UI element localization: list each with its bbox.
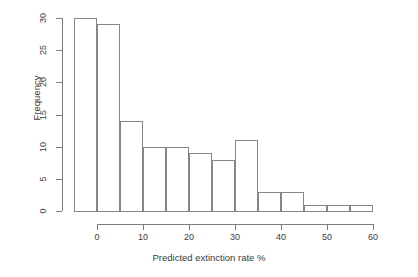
histogram-bar [350,205,373,212]
histogram-bar [143,147,166,212]
x-axis-tick-label: 60 [358,232,388,243]
y-axis-tick [56,50,62,51]
histogram-bar [304,205,327,212]
x-axis-title: Predicted extinction rate % [0,252,418,263]
x-axis-tick [281,224,282,230]
histogram-bar [258,192,281,212]
histogram-bar [327,205,350,212]
plot-area: 051015202530 0102030405060 Frequency Pre… [0,0,418,277]
x-axis-tick [97,224,98,230]
y-axis-tick-label-wrap: 30 [33,13,53,23]
x-axis-tick [143,224,144,230]
y-axis-tick [56,211,62,212]
x-axis-tick [327,224,328,230]
y-axis-title: Frequency [31,63,43,133]
histogram-bar [97,24,120,212]
y-axis-line [62,18,63,211]
histogram-bar [166,147,189,212]
y-axis-tick-label-wrap: 0 [33,206,53,216]
x-axis-tick-label: 40 [266,232,296,243]
y-axis-tick-label-wrap: 5 [33,174,53,184]
y-axis-tick [56,179,62,180]
histogram-bar [74,18,97,212]
y-axis-tick-label: 5 [38,169,48,189]
x-axis-tick-label: 20 [174,232,204,243]
histogram-bar [235,140,258,212]
histogram-bar [120,121,143,212]
y-axis-tick-label: 10 [38,137,48,157]
x-axis-tick [373,224,374,230]
y-axis-tick-label-wrap: 25 [33,45,53,55]
y-axis-tick [56,115,62,116]
y-axis-tick [56,18,62,19]
y-axis-tick [56,82,62,83]
x-axis-tick [235,224,236,230]
x-axis-tick [189,224,190,230]
x-axis-tick-label: 0 [82,232,112,243]
y-axis-tick-label-wrap: 10 [33,142,53,152]
y-axis-tick [56,147,62,148]
x-axis-tick-label: 30 [220,232,250,243]
histogram-bar [281,192,304,212]
x-axis-tick-label: 50 [312,232,342,243]
histogram-bar [189,153,212,212]
histogram-figure: 051015202530 0102030405060 Frequency Pre… [0,0,418,277]
y-axis-tick-label: 0 [38,201,48,221]
histogram-bar [212,160,235,212]
x-axis-tick-label: 10 [128,232,158,243]
y-axis-tick-label: 30 [38,8,48,28]
y-axis-tick-label: 25 [38,40,48,60]
